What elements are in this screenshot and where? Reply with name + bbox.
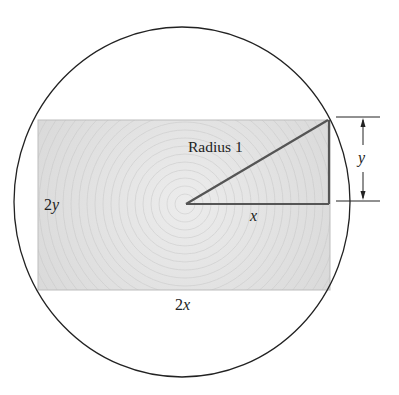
half-height-label: y [356,149,366,167]
full-height-label: 2y [44,196,60,214]
radius-label: Radius 1 [188,138,243,155]
full-width-label: 2x [175,296,190,313]
half-height-var: y [356,149,366,167]
diagram-canvas: Radius 1 y x 2y 2x [0,0,399,395]
full-width-var: x [182,296,190,313]
half-width-label: x [249,207,257,224]
arrow-up-icon [361,118,366,127]
full-height-coef: 2 [44,196,52,213]
full-width-coef: 2 [175,296,183,313]
half-width-var: x [249,207,257,224]
full-height-var: y [50,196,60,214]
arrow-down-icon [361,191,366,200]
